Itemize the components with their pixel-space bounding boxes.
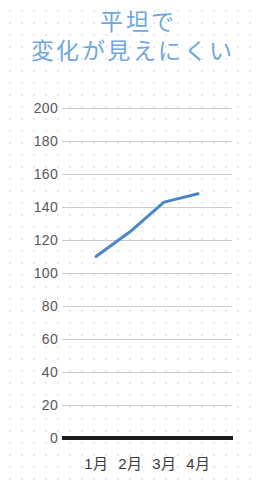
- series-layer: [0, 0, 261, 483]
- chart-page: 平坦で 変化が見えにくい 020406080100120140160180200…: [0, 0, 261, 483]
- series-line-1: [96, 194, 198, 257]
